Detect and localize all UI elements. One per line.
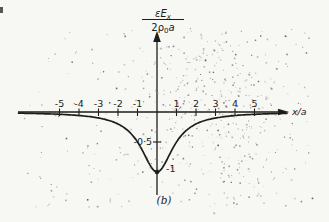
x-tick-label: 4 [232, 98, 238, 109]
scanned-figure: -5-4-3-2-112345 -0·5 -1 x/a εEx 2ρ0a (b) [0, 0, 329, 222]
scan-edge-mark [0, 7, 3, 13]
field-curve [19, 113, 287, 172]
x-tick-label: 5 [251, 98, 257, 109]
y-tick-label-neg-one: -1 [166, 163, 175, 174]
y-axis-label: εEx 2ρ0a [142, 8, 184, 36]
x-tick-label: -2 [113, 98, 122, 109]
x-tick-label: -4 [74, 98, 83, 109]
x-tick-label: -3 [94, 98, 103, 109]
lorentzian-curve [19, 113, 287, 172]
x-tick-label: 1 [173, 98, 179, 109]
figure-caption: (b) [157, 194, 172, 206]
y-axis-arrow-icon [153, 31, 161, 42]
y-axis-label-numerator: εEx [155, 8, 172, 21]
y-tick-label-neg-half: -0·5 [133, 136, 152, 147]
x-axis-label: x/a [291, 106, 307, 117]
x-tick-label: -5 [55, 98, 64, 109]
x-tick-label: 2 [193, 98, 199, 109]
x-tick-label: 3 [212, 98, 218, 109]
figure-plot: -5-4-3-2-112345 -0·5 -1 x/a εEx 2ρ0a (b) [0, 0, 329, 222]
scan-speckle-noise [24, 28, 313, 214]
y-axis-label-denominator: 2ρ0a [151, 22, 174, 36]
curve-minimum-point [155, 170, 160, 175]
x-axis-ticks: -5-4-3-2-112345 [55, 98, 258, 117]
x-tick-label: -1 [133, 98, 142, 109]
